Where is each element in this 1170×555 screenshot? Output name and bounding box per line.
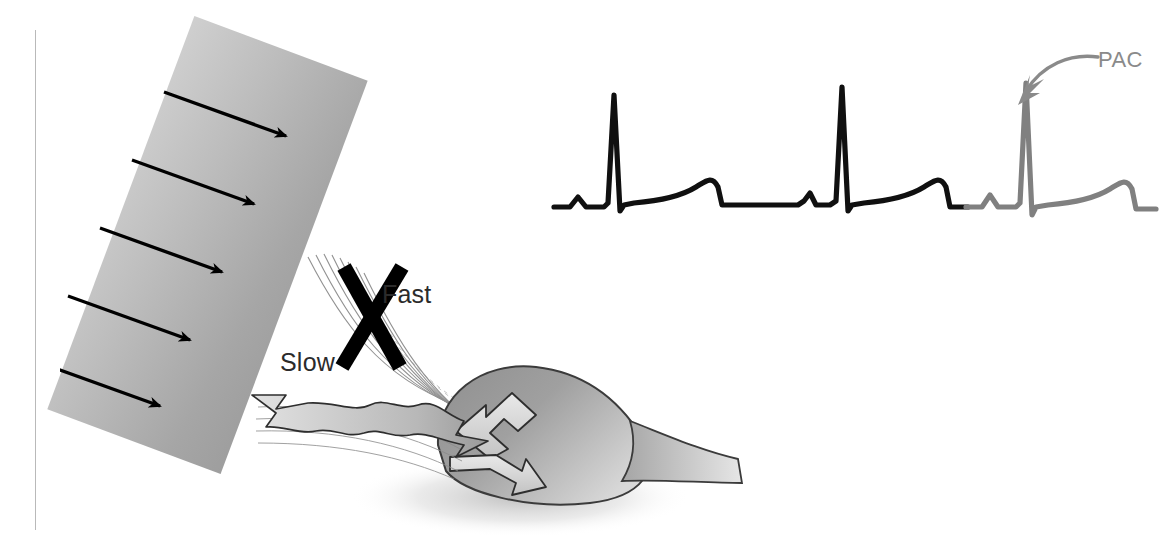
- ecg-pac-segment: [966, 83, 1156, 215]
- av-node-diagram: Fast Slow: [250, 245, 750, 545]
- pac-label: PAC: [1098, 47, 1143, 73]
- illustration-canvas: Fast Slow PAC: [0, 0, 1170, 555]
- ecg-sinus-segment: [554, 87, 968, 211]
- ecg-trace-svg: [530, 35, 1170, 250]
- av-node-svg: [250, 245, 750, 545]
- av-node-tail: [622, 421, 742, 483]
- ecg-rhythm-strip: [530, 35, 1170, 250]
- pac-callout-arrowhead: [1018, 75, 1044, 105]
- left-margin-rule: [35, 30, 36, 530]
- slow-pathway-label: Slow: [280, 348, 335, 377]
- fast-pathway-label: Fast: [382, 280, 431, 309]
